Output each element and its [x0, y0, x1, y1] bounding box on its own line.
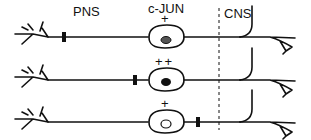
central-terminal-icon [240, 122, 295, 139]
neuron-row-2: ++ [15, 48, 295, 97]
ascending-branch [240, 48, 252, 80]
nucleus-black [161, 78, 171, 86]
central-terminal-icon [240, 37, 295, 54]
cjun-level: + [161, 11, 169, 26]
cns-label: CNS [224, 6, 252, 21]
cjun-level: ++ [155, 54, 174, 69]
nucleus-grey [161, 37, 171, 44]
peripheral-dendrite-icon [15, 65, 48, 87]
central-terminal-icon [240, 80, 295, 97]
nucleus-open [161, 120, 171, 128]
lesion-mark [196, 117, 200, 127]
neuron-row-3: + [15, 90, 295, 139]
pns-label: PNS [73, 4, 100, 19]
lesion-mark [62, 32, 66, 42]
peripheral-dendrite-icon [15, 107, 48, 129]
diagram-canvas: PNS c-JUN CNS + ++ [0, 0, 311, 140]
ascending-branch [240, 90, 252, 122]
peripheral-dendrite-icon [15, 22, 48, 44]
lesion-mark [133, 75, 137, 85]
cjun-level: + [161, 96, 169, 111]
